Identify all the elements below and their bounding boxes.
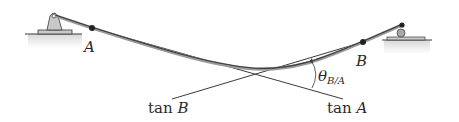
ground-shading: [28, 34, 82, 48]
beam-end-marker: [399, 22, 404, 27]
angle-arc: [311, 60, 316, 88]
beam-deflection-diagram: A B θB/A tan B tan A: [0, 0, 459, 122]
roller-support: [382, 29, 432, 54]
support-base: [38, 30, 72, 34]
roller-base: [387, 37, 425, 40]
elastic-curve: [56, 15, 402, 69]
label-point-b: B: [355, 52, 367, 70]
label-tan-a: tan A: [327, 99, 367, 117]
pin-support: [25, 13, 82, 48]
label-theta: θB/A: [318, 67, 345, 86]
label-point-a: A: [82, 38, 95, 56]
point-b-marker: [360, 39, 366, 45]
ground-shading: [384, 40, 430, 54]
point-a-marker: [89, 25, 95, 31]
roller-icon: [397, 29, 405, 37]
label-tan-b: tan B: [148, 99, 188, 117]
